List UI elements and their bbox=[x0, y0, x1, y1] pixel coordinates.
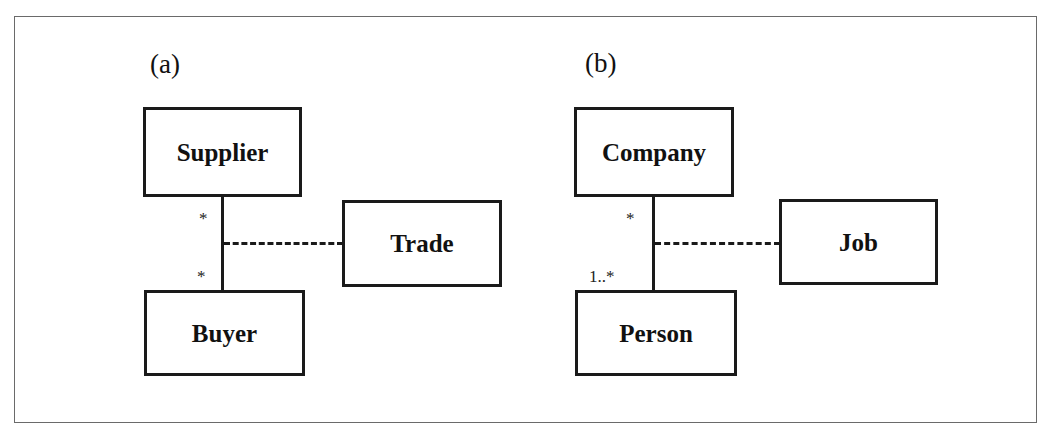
multiplicity-person-end: 1..* bbox=[589, 268, 615, 285]
association-class-link-trade bbox=[224, 242, 343, 245]
class-supplier[interactable]: Supplier bbox=[143, 107, 302, 197]
class-job[interactable]: Job bbox=[779, 199, 938, 285]
class-buyer-name: Buyer bbox=[192, 321, 257, 346]
class-trade-name: Trade bbox=[390, 231, 453, 256]
class-person[interactable]: Person bbox=[575, 290, 737, 376]
class-company[interactable]: Company bbox=[574, 107, 734, 197]
class-company-name: Company bbox=[602, 140, 706, 165]
class-job-name: Job bbox=[839, 230, 878, 255]
panel-b-label: (b) bbox=[585, 50, 616, 77]
class-person-name: Person bbox=[619, 321, 693, 346]
multiplicity-company-end: * bbox=[626, 210, 635, 227]
panel-a-label: (a) bbox=[150, 51, 180, 78]
class-trade[interactable]: Trade bbox=[342, 200, 502, 287]
class-buyer[interactable]: Buyer bbox=[144, 290, 305, 376]
class-supplier-name: Supplier bbox=[177, 140, 269, 165]
association-class-link-job bbox=[655, 242, 780, 245]
multiplicity-buyer-end: * bbox=[197, 268, 206, 285]
multiplicity-supplier-end: * bbox=[199, 210, 208, 227]
